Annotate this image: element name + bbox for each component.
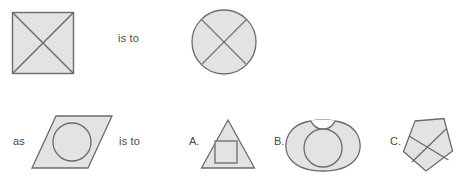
shape-option-c-pentagon-with-x[interactable] — [404, 119, 453, 172]
shape-circle-with-x — [192, 10, 256, 74]
blob-inner-circle — [304, 129, 342, 167]
triangle-inner-square — [215, 141, 237, 163]
visual-analogy-puzzle: is to as is to A. B. C. — [0, 0, 460, 179]
connector-as: as — [13, 136, 25, 147]
shape-option-b-blob-with-circle[interactable] — [286, 120, 360, 171]
pentagon-outline — [404, 119, 453, 172]
connector-bottom-is-to: is to — [119, 136, 140, 147]
puzzle-canvas — [0, 0, 460, 179]
shape-option-a-triangle-with-square[interactable] — [202, 120, 255, 168]
option-label-c[interactable]: C. — [390, 136, 401, 147]
shape-square-with-x — [13, 13, 74, 74]
option-label-a[interactable]: A. — [189, 136, 199, 147]
shape-parallelogram-with-circle — [32, 116, 112, 168]
connector-top-is-to: is to — [118, 33, 139, 44]
option-label-b[interactable]: B. — [274, 136, 284, 147]
parallelogram-inner-circle — [53, 123, 91, 161]
